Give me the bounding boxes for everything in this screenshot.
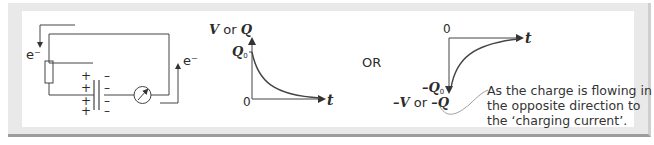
resistor-icon: [45, 61, 53, 83]
graph1-x-axis-label: t: [327, 92, 333, 108]
graph1-y-axis-label: V or Q: [209, 22, 252, 37]
electron-flow-arrow-left: [40, 25, 75, 46]
electron-label-right: e⁻: [183, 53, 198, 68]
annotation-text: As the charge is flowing in the opposite…: [487, 83, 654, 128]
electron-label-left: e⁻: [26, 47, 41, 62]
or-separator: OR: [362, 55, 381, 70]
rise-curve: [451, 39, 518, 88]
plus-sign: +: [81, 81, 91, 95]
graph1-origin-label: 0: [243, 95, 251, 109]
graph1-q0-label: Q0: [232, 44, 248, 60]
plus-sign: +: [81, 104, 91, 118]
graph2-x-axis-label: t: [525, 30, 531, 46]
minus-sign: –: [104, 81, 110, 95]
decay-curve: [252, 52, 320, 98]
minus-sign: –: [104, 104, 110, 118]
graph2-y-axis-label: –V or –Q: [393, 95, 449, 110]
graph2-neg-q0-label: –Q0: [422, 80, 444, 96]
graph-discharge-positive: [249, 39, 324, 99]
graph2-origin-label: 0: [443, 22, 451, 36]
